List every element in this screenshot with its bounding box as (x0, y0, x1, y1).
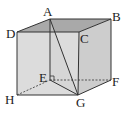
label-G: G (76, 95, 85, 110)
label-F: F (112, 74, 119, 89)
label-D: D (6, 26, 15, 41)
label-E: E (39, 70, 47, 85)
label-B: B (112, 9, 121, 24)
label-H: H (5, 92, 14, 107)
label-C: C (80, 31, 89, 46)
label-A: A (43, 4, 53, 19)
cube-diagram: A B C D E F G H (0, 0, 130, 113)
